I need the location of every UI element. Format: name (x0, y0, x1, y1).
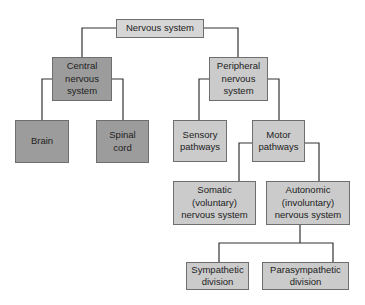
node-sensory-pathways: Sensory pathways (173, 120, 227, 162)
node-spinal-cord: Spinal cord (96, 120, 149, 163)
node-peripheral-nervous-system: Peripheral nervous system (209, 57, 268, 101)
node-somatic-nervous-system: Somatic (voluntary) nervous system (173, 181, 256, 225)
node-brain: Brain (15, 120, 69, 163)
node-autonomic-nervous-system: Autonomic (involuntary) nervous system (266, 181, 350, 225)
node-motor-pathways: Motor pathways (252, 120, 305, 162)
node-nervous-system: Nervous system (116, 19, 204, 38)
node-sympathetic-division: Sympathetic division (186, 262, 249, 290)
node-parasympathetic-division: Parasympathetic division (262, 262, 349, 290)
node-central-nervous-system: Central nervous system (52, 57, 112, 101)
